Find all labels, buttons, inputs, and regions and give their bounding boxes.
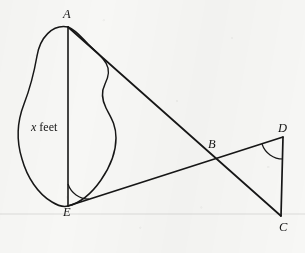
segment-ED (68, 137, 283, 206)
vertex-label-A: A (63, 8, 71, 21)
pond-outline-shape (18, 27, 116, 207)
angle-arc-at-D (262, 144, 283, 159)
vertex-label-E: E (63, 206, 71, 219)
vertex-label-B: B (208, 138, 216, 151)
segment-DC (281, 137, 283, 216)
geometry-figure: A B C D E x feet (0, 0, 305, 253)
vertex-label-D: D (278, 122, 287, 135)
segment-AC (68, 27, 281, 216)
vertex-label-C: C (279, 221, 287, 234)
pond-width-label: x feet (31, 121, 57, 133)
pond-width-unit: feet (36, 120, 57, 134)
